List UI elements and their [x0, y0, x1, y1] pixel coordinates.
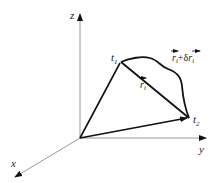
position-vector-t2: [80, 118, 187, 138]
true-path-ri: [121, 62, 189, 118]
t2-label: t2: [193, 113, 200, 128]
y-axis-label: y: [198, 143, 204, 155]
svg-text:ri+δri: ri+δri: [172, 52, 194, 65]
t1-label: t1: [111, 51, 118, 66]
z-axis-label: z: [69, 9, 75, 21]
varied-path-label: ri+δri: [171, 51, 200, 65]
path-variation-diagram: z y x t1 t2 ri ri+δri: [0, 0, 218, 183]
ri-label: ri: [139, 78, 146, 92]
x-axis-label: x: [10, 157, 16, 169]
coordinate-axes: [15, 14, 206, 177]
position-vector-t1: [80, 63, 120, 138]
x-axis: [15, 138, 80, 177]
